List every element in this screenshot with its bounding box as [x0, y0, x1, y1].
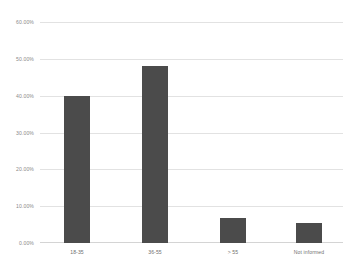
bar-18-35[interactable]: [64, 96, 90, 243]
bar-over-55[interactable]: [220, 218, 246, 243]
y-tick-label-10: 10.00%: [16, 203, 34, 209]
bar-36-55[interactable]: [142, 66, 168, 243]
x-category-label-over-55: > 55: [228, 249, 238, 255]
bar-chart: 60.00% 50.00% 40.00% 30.00% 20.00% 10.00…: [0, 0, 355, 273]
x-category-label-not-informed: Not informed: [294, 249, 324, 255]
y-tick-label-50: 50.00%: [16, 56, 34, 62]
x-axis-labels: 18-35 36-55 > 55 Not informed: [40, 249, 343, 263]
y-tick-label-0: 0.00%: [19, 240, 34, 246]
x-category-label-36-55: 36-55: [148, 249, 162, 255]
y-tick-label-30: 30.00%: [16, 130, 34, 136]
bar-not-informed[interactable]: [296, 223, 322, 243]
x-category-label-18-35: 18-35: [70, 249, 84, 255]
y-tick-label-20: 20.00%: [16, 166, 34, 172]
y-tick-label-40: 40.00%: [16, 93, 34, 99]
bars-layer: [40, 22, 343, 243]
y-axis-labels: 60.00% 50.00% 40.00% 30.00% 20.00% 10.00…: [0, 0, 40, 273]
y-tick-label-60: 60.00%: [16, 19, 34, 25]
